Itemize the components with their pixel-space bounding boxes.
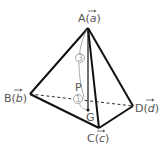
svg-text:B(b): B(b): [4, 92, 27, 105]
label-b: B(b): [4, 89, 27, 106]
edge-cd: [99, 106, 133, 128]
ratio-1-label: 1: [75, 94, 81, 104]
label-p: P: [75, 81, 82, 94]
ratio-3-label: 3: [77, 53, 83, 63]
label-g: G: [86, 111, 95, 124]
label-d: D(d): [135, 99, 159, 116]
label-c: C(c): [87, 130, 109, 146]
svg-text:D(d): D(d): [135, 102, 159, 115]
label-a: A(a): [78, 10, 101, 26]
svg-text:A(a): A(a): [78, 12, 101, 25]
tetrahedron-diagram: 3 1 A(a) B(b) D(d) C(c) P G: [0, 0, 164, 149]
svg-text:C(c): C(c): [87, 132, 109, 145]
